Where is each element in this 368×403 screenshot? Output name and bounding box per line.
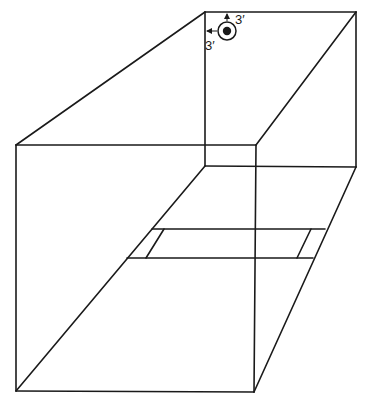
floor-right-edge bbox=[254, 167, 356, 392]
left-offset-label: 3′ bbox=[205, 38, 215, 53]
floor-rect-right-inner bbox=[297, 229, 311, 258]
front-bottom-edge bbox=[16, 391, 254, 392]
front-frame bbox=[16, 145, 256, 392]
ceiling-light-center bbox=[223, 27, 231, 35]
floor-rectangle bbox=[127, 229, 325, 258]
front-right-edge bbox=[254, 145, 256, 392]
ceiling-fixture: 3′ 3′ bbox=[205, 12, 245, 53]
back-bottom-edge bbox=[205, 166, 356, 167]
ceiling-right-edge bbox=[256, 12, 356, 145]
floor-left-edge bbox=[16, 166, 205, 391]
top-offset-label: 3′ bbox=[235, 12, 245, 27]
ceiling-left-edge bbox=[16, 12, 205, 145]
receding-edges bbox=[16, 12, 356, 392]
room-diagram: 3′ 3′ bbox=[0, 0, 368, 403]
